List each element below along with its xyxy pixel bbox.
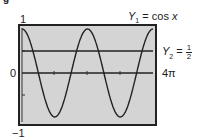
plot-area (0, 0, 197, 140)
